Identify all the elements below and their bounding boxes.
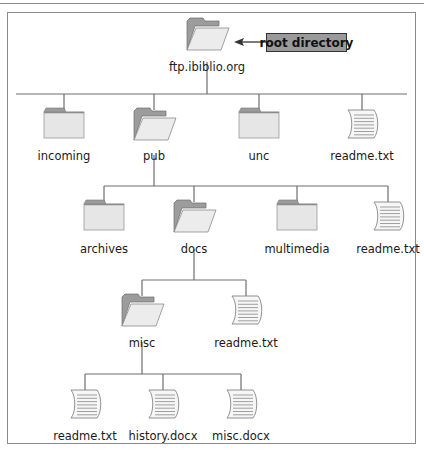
node-label: history.docx bbox=[128, 429, 197, 443]
text-file-icon bbox=[227, 390, 257, 418]
node-label: unc bbox=[249, 149, 270, 163]
folder-closed-icon bbox=[277, 200, 317, 230]
node-label: readme.txt bbox=[356, 242, 420, 256]
node-label: readme.txt bbox=[53, 429, 117, 443]
folder-closed-icon bbox=[239, 108, 279, 138]
node-label: ftp.ibiblio.org bbox=[169, 60, 245, 74]
text-file-icon bbox=[374, 202, 404, 230]
node-label: multimedia bbox=[264, 242, 329, 256]
node-label: archives bbox=[80, 242, 128, 256]
node-label: misc.docx bbox=[212, 429, 270, 443]
text-file-icon bbox=[348, 110, 378, 138]
tree-node-archives: archives bbox=[80, 200, 128, 256]
folder-closed-icon bbox=[84, 200, 124, 230]
text-file-icon bbox=[71, 390, 101, 418]
directory-tree-diagram: ftp.ibiblio.orgincomingpubuncreadme.txta… bbox=[0, 0, 424, 451]
tree-node-incoming: incoming bbox=[38, 108, 91, 163]
node-label: readme.txt bbox=[330, 149, 394, 163]
text-file-icon bbox=[232, 296, 262, 324]
diagram-frame bbox=[8, 13, 416, 444]
node-label: readme.txt bbox=[214, 336, 278, 350]
text-file-icon bbox=[149, 390, 179, 418]
node-label: misc bbox=[129, 336, 156, 350]
node-label: docs bbox=[181, 242, 208, 256]
callout-label: root directory bbox=[260, 36, 354, 50]
node-label: incoming bbox=[38, 149, 91, 163]
node-label: pub bbox=[143, 149, 165, 163]
folder-closed-icon bbox=[44, 108, 84, 138]
